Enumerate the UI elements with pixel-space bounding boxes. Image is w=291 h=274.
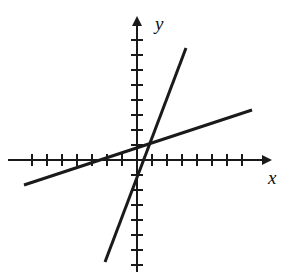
x-axis-arrow-icon — [262, 155, 272, 165]
coordinate-graph-figure: y x — [0, 0, 291, 274]
y-axis-label: y — [153, 13, 164, 34]
axes-group — [8, 16, 272, 272]
y-axis-arrow-icon — [132, 16, 142, 26]
graph-canvas: y x — [0, 0, 291, 274]
x-axis-label: x — [267, 167, 277, 188]
